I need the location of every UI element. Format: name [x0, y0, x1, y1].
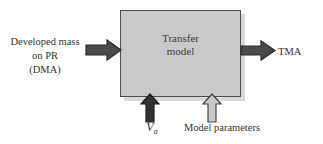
output-arrow-right-icon — [241, 41, 276, 60]
va-label-subscript: a — [154, 127, 158, 136]
process-box-label-line2: model — [120, 45, 241, 58]
model-parameters-arrow-up-icon — [202, 94, 222, 123]
va-arrow-up-icon — [140, 94, 160, 123]
process-box-label-line1: Transfer — [120, 32, 241, 45]
va-label: Va — [131, 120, 173, 139]
input-label: Developed mass on PR (DMA) — [2, 35, 88, 77]
model-parameters-label: Model parameters — [172, 121, 272, 135]
input-label-line3: (DMA) — [2, 63, 88, 77]
input-arrow-right-icon — [86, 40, 122, 60]
process-box-label: Transfer model — [120, 32, 241, 58]
output-label: TMA — [278, 45, 320, 59]
input-label-line2: on PR — [2, 49, 88, 63]
diagram-canvas: Transfer model Developed mass on PR (DMA… — [0, 0, 323, 144]
input-label-line1: Developed mass — [2, 35, 88, 49]
va-label-main: V — [146, 120, 153, 134]
